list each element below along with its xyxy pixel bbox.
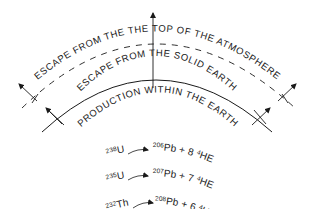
product-mass: 206 (153, 141, 165, 149)
reaction-thorium-232: 232Th208Pb+64HE (104, 195, 217, 209)
right-outer-escape-arrow-icon (278, 84, 296, 101)
parent-element: U (116, 143, 125, 155)
parent-element: U (116, 169, 125, 181)
right-outer-tick (282, 94, 288, 103)
left-inner-tick (50, 112, 62, 124)
svg-text:235U207Pb+74HE: 235U207Pb+74HE (105, 167, 216, 191)
product-element: Pb (163, 142, 177, 155)
product-element: Pb (165, 195, 179, 208)
product-mass: 207 (153, 167, 165, 175)
parent-mass: 232 (104, 199, 117, 209)
svg-text:232Th208Pb+64HE: 232Th208Pb+64HE (104, 195, 217, 209)
parent-mass: 235 (105, 171, 118, 181)
left-outer-escape-arrow-icon (19, 84, 37, 101)
decay-arrow-icon (128, 150, 148, 155)
decay-arrow-icon (128, 176, 148, 181)
helium-escape-diagram: ESCAPE FROM THE THE TOP OF THE ATMOSPHER… (0, 0, 311, 209)
reaction-uranium-238: 238U206Pb+84HE (105, 141, 216, 165)
product-element: Pb (163, 168, 177, 181)
reaction-uranium-235: 235U207Pb+74HE (105, 167, 216, 191)
production-label: PRODUCTION WITHIN THE EARTH (75, 83, 241, 128)
svg-text:238U206Pb+84HE: 238U206Pb+84HE (105, 141, 216, 165)
parent-mass: 238 (105, 145, 118, 155)
product-mass: 208 (155, 195, 167, 203)
parent-element: Th (115, 197, 129, 209)
decay-arrow-icon (133, 203, 153, 208)
